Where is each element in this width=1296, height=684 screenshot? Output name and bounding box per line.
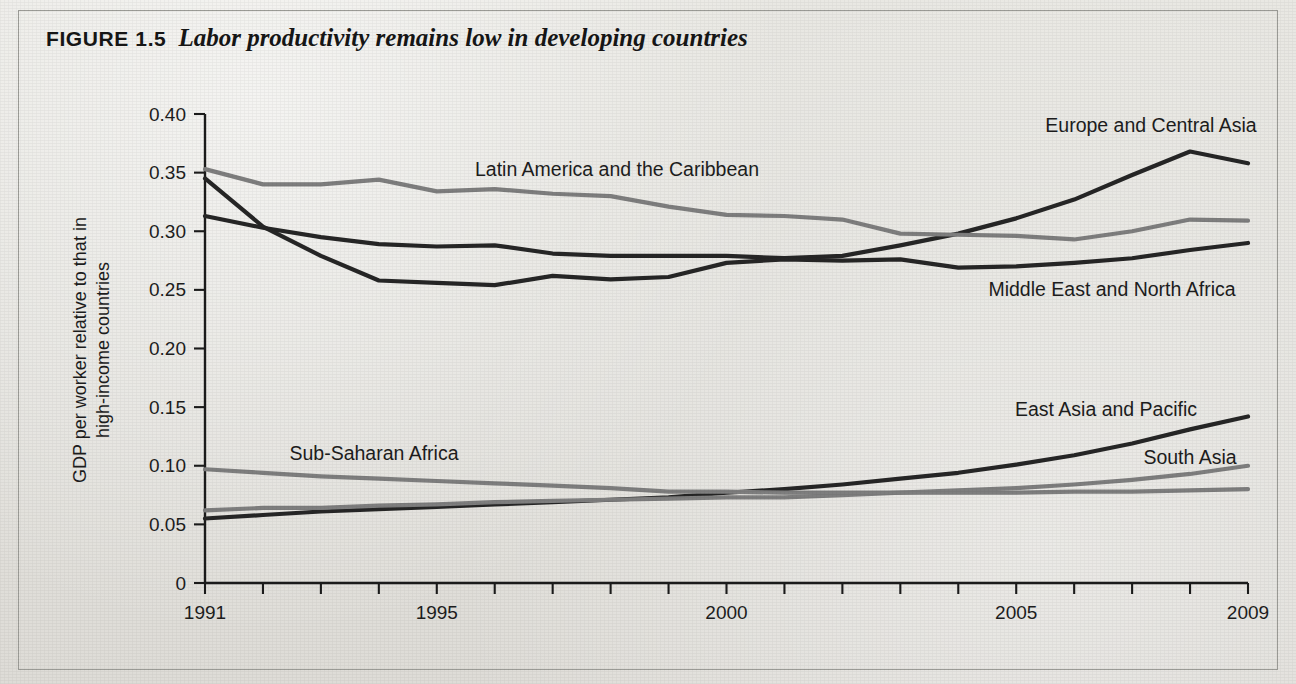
chart-plot-area: 00.050.100.150.200.250.300.350.40 199119… — [0, 0, 1296, 684]
series-line — [205, 466, 1248, 511]
series-label: Latin America and the Caribbean — [475, 158, 759, 180]
line-chart: 00.050.100.150.200.250.300.350.40 199119… — [0, 0, 1296, 684]
series-label: Middle East and North Africa — [988, 278, 1235, 300]
y-tick-label: 0.10 — [149, 455, 186, 476]
y-tick-label: 0.25 — [149, 279, 186, 300]
series-label: Sub-Saharan Africa — [289, 442, 458, 464]
y-tick-label: 0 — [175, 573, 186, 594]
y-axis-ticks: 00.050.100.150.200.250.300.350.40 — [149, 104, 205, 594]
y-tick-label: 0.05 — [149, 514, 186, 535]
x-tick-label: 2005 — [995, 602, 1037, 623]
series-line — [205, 417, 1248, 519]
series-line — [205, 178, 1248, 285]
x-tick-label: 1991 — [184, 602, 226, 623]
x-tick-label: 2000 — [705, 602, 747, 623]
y-tick-label: 0.15 — [149, 397, 186, 418]
y-axis-title-line1: GDP per worker relative to that in — [70, 217, 90, 483]
y-tick-label: 0.30 — [149, 221, 186, 242]
x-tick-label: 1995 — [416, 602, 458, 623]
figure-page: FIGURE 1.5Labor productivity remains low… — [0, 0, 1296, 684]
series-line — [205, 469, 1248, 492]
y-tick-label: 0.35 — [149, 162, 186, 183]
y-tick-label: 0.40 — [149, 104, 186, 125]
series-label: South Asia — [1143, 446, 1236, 468]
series-label-group: Europe and Central AsiaLatin America and… — [289, 114, 1256, 468]
x-axis-ticks: 19911995200020052009 — [184, 583, 1269, 623]
y-axis-title: GDP per worker relative to that inhigh-i… — [70, 217, 113, 483]
series-label: East Asia and Pacific — [1015, 398, 1197, 420]
y-axis-title-line2: high-income countries — [93, 262, 113, 438]
x-tick-label: 2009 — [1227, 602, 1269, 623]
series-label: Europe and Central Asia — [1045, 114, 1257, 136]
y-tick-label: 0.20 — [149, 338, 186, 359]
